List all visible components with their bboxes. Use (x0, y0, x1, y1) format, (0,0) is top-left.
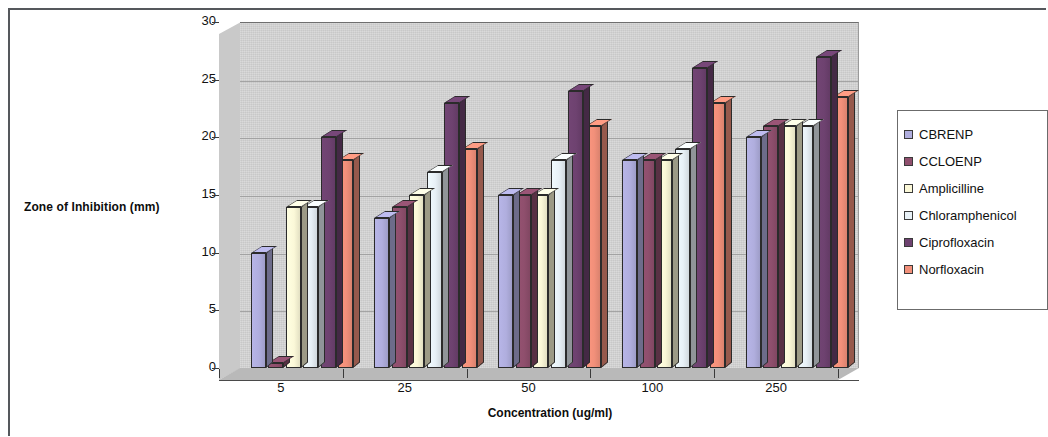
bar-face (374, 218, 389, 368)
legend-item[interactable]: Ciprofloxacin (904, 229, 1047, 256)
y-tick-label: 10 (182, 244, 216, 259)
bar-side (459, 97, 466, 368)
legend-swatch-icon (904, 184, 913, 193)
legend-label: CBRENP (919, 127, 973, 142)
bar-side (813, 120, 820, 368)
bar-side (336, 131, 343, 368)
bar-side (778, 120, 785, 368)
y-tick-mark (212, 253, 219, 254)
legend-label: CCLOENP (919, 154, 982, 169)
y-tick-label: 0 (182, 359, 216, 374)
bar-side (424, 189, 431, 368)
bar-side (690, 143, 697, 368)
bar-side (848, 91, 855, 368)
legend-label: Chloramphenicol (919, 208, 1017, 223)
bar-face (622, 160, 637, 368)
y-tick-mark (212, 310, 219, 311)
bar-side (389, 212, 396, 368)
x-axis-title: Concentration (ug/ml) (200, 406, 900, 420)
y-tick-mark (212, 195, 219, 196)
bar-side (672, 155, 679, 368)
bar-side (655, 155, 662, 368)
bar-top (816, 50, 842, 57)
bar-side (513, 189, 520, 368)
bar-face (498, 195, 513, 368)
legend-item[interactable]: Chloramphenicol (904, 202, 1047, 229)
legend-swatch-icon (904, 238, 913, 247)
bar (498, 195, 513, 368)
x-tick-mark (467, 369, 468, 378)
legend-swatch-icon (904, 157, 913, 166)
x-tick-mark (343, 369, 344, 378)
bar-side (725, 97, 732, 368)
bar-face (251, 253, 266, 368)
bar-side (761, 131, 768, 368)
x-tick-mark (838, 369, 839, 378)
legend-label: Norfloxacin (919, 262, 984, 277)
legend-swatch-icon (904, 211, 913, 220)
x-tick-mark (219, 369, 220, 378)
bar-chart: Zone of Inhibition (mm) Concentration (u… (0, 0, 1048, 437)
bar-top (444, 96, 470, 103)
bar-side (831, 51, 838, 368)
bar (746, 137, 761, 368)
bar (622, 160, 637, 368)
x-tick-label: 25 (343, 380, 467, 395)
bar-side (442, 166, 449, 368)
bar-side (566, 155, 573, 368)
legend: CBRENPCCLOENPAmplicillineChloramphenicol… (897, 110, 1048, 310)
bar-side (301, 201, 308, 368)
x-tick-label: 5 (219, 380, 343, 395)
bar (286, 207, 301, 368)
bar (374, 218, 389, 368)
y-tick-label: 25 (182, 71, 216, 86)
y-tick-label: 5 (182, 301, 216, 316)
y-tick-label: 20 (182, 128, 216, 143)
bar-side (353, 155, 360, 368)
bar-side (707, 62, 714, 368)
bar-face (286, 207, 301, 368)
legend-swatch-icon (904, 265, 913, 274)
bar-top (568, 84, 594, 91)
legend-swatch-icon (904, 130, 913, 139)
x-tick-mark (590, 369, 591, 378)
x-tick-label: 50 (467, 380, 591, 395)
bar-side (266, 247, 273, 368)
bar-side (318, 201, 325, 368)
y-tick-mark (212, 137, 219, 138)
bar (251, 253, 266, 368)
x-tick-label: 100 (590, 380, 714, 395)
bar-side (583, 85, 590, 368)
y-axis-ticks: 051015202530 (176, 0, 216, 437)
bars-layer (219, 22, 859, 380)
legend-label: Amplicilline (919, 181, 984, 196)
y-tick-label: 30 (182, 13, 216, 28)
bar-side (637, 155, 644, 368)
bar-face (746, 137, 761, 368)
bar-side (407, 201, 414, 368)
bar-top (692, 61, 718, 68)
y-tick-label: 15 (182, 186, 216, 201)
x-tick-label: 250 (714, 380, 838, 395)
x-tick-mark (714, 369, 715, 378)
y-tick-mark (212, 80, 219, 81)
y-axis-title: Zone of Inhibition (mm) (24, 200, 160, 214)
legend-item[interactable]: Amplicilline (904, 175, 1047, 202)
legend-item[interactable]: CBRENP (904, 121, 1047, 148)
bar-side (796, 120, 803, 368)
legend-item[interactable]: CCLOENP (904, 148, 1047, 175)
y-tick-mark (212, 22, 219, 23)
bar-side (531, 189, 538, 368)
legend-item[interactable]: Norfloxacin (904, 256, 1047, 283)
bar-side (477, 143, 484, 368)
bar-side (548, 189, 555, 368)
y-tick-mark (212, 368, 219, 369)
legend-label: Ciprofloxacin (919, 235, 994, 250)
bar-side (601, 120, 608, 368)
